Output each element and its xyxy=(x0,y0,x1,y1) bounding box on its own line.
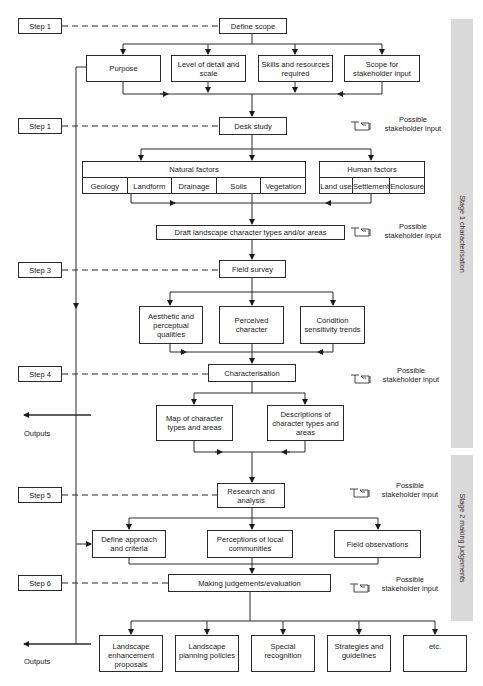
aesthetic-qualities-box: Aesthetic and perceptual qualities xyxy=(139,306,203,344)
output-box: Special recognition xyxy=(251,635,315,672)
level-of-detail-box: Level of detail and scale xyxy=(171,55,246,82)
making-judgements-box: Making judgements/evaluation xyxy=(168,574,331,592)
draft-character-types-box: Draft landscape character types and/or a… xyxy=(156,225,345,240)
research-analysis-box: Research and analysis xyxy=(217,483,285,508)
stage-band-making-judgements: Stage 2 making judgements xyxy=(451,455,473,621)
natural-factors-title: Natural factors xyxy=(83,162,305,178)
map-character-types-box: Map of character types and areas xyxy=(156,405,233,441)
define-approach-box: Define approach and criteria xyxy=(92,530,166,558)
stakeholder-note: Possible stakeholder input xyxy=(380,481,440,499)
factor-cell: Drainage xyxy=(172,178,217,194)
stage-band-characterisation: Stage 1 characterisation xyxy=(451,19,473,448)
outputs-label: Outputs xyxy=(24,657,50,666)
scope-stakeholder-box: Scope for stakeholder input xyxy=(344,55,420,82)
factor-cell: Geology xyxy=(83,178,128,194)
factor-cell: Soils xyxy=(217,178,262,194)
condition-trends-box: Condition sensitivity trends xyxy=(300,306,365,344)
step-label: Step 5 xyxy=(18,487,62,503)
skills-resources-box: Skills and resources required xyxy=(258,55,333,82)
stakeholder-note: Possible stakeholder input xyxy=(383,222,443,240)
output-box: Landscape enhancement proposals xyxy=(99,635,163,672)
human-factors-title: Human factors xyxy=(320,162,424,178)
perceptions-communities-box: Perceptions of local communities xyxy=(207,530,293,558)
stakeholder-note: Possible stakeholder input xyxy=(380,575,440,593)
step-label: Step 1 xyxy=(18,18,62,34)
step-label: Step 4 xyxy=(18,366,62,382)
factor-cell: Landform xyxy=(128,178,173,194)
step-label: Step 1 xyxy=(18,118,62,134)
pointing-hand-icon xyxy=(350,120,372,132)
stage-label: Stage 2 making judgements xyxy=(458,493,467,582)
factor-cell: Vegetation xyxy=(261,178,305,194)
stage-label: Stage 1 characterisation xyxy=(458,195,467,273)
field-observations-box: Field observations xyxy=(334,530,421,558)
step-label: Step 3 xyxy=(18,262,62,278)
output-box: etc. xyxy=(403,635,467,672)
purpose-box: Purpose xyxy=(86,55,161,82)
stakeholder-note: Possible stakeholder input xyxy=(381,366,441,384)
perceived-character-box: Perceived character xyxy=(219,306,284,344)
factor-cell: Land use xyxy=(320,178,353,194)
factor-cell: Enclosure xyxy=(390,178,424,194)
output-box: Strategies and guidelines xyxy=(327,635,391,672)
outputs-label: Outputs xyxy=(24,429,50,438)
pointing-hand-icon xyxy=(350,226,372,238)
output-box: Landscape planning policies xyxy=(175,635,239,672)
descriptions-character-types-box: Descriptions of character types and area… xyxy=(267,405,344,441)
field-survey-box: Field survey xyxy=(219,260,286,278)
desk-study-box: Desk study xyxy=(219,117,287,135)
pointing-hand-icon xyxy=(349,487,371,499)
factor-cell: Settlement xyxy=(353,178,390,194)
natural-factors-table: Natural factors Geology Landform Drainag… xyxy=(82,161,306,194)
pointing-hand-icon xyxy=(349,582,371,594)
define-scope-box: Define scope xyxy=(219,18,287,34)
step-label: Step 6 xyxy=(18,575,62,591)
stakeholder-note: Possible stakeholder input xyxy=(383,115,443,133)
pointing-hand-icon xyxy=(350,373,372,385)
human-factors-table: Human factors Land use Settlement Enclos… xyxy=(319,161,425,194)
characterisation-box: Characterisation xyxy=(208,364,296,382)
